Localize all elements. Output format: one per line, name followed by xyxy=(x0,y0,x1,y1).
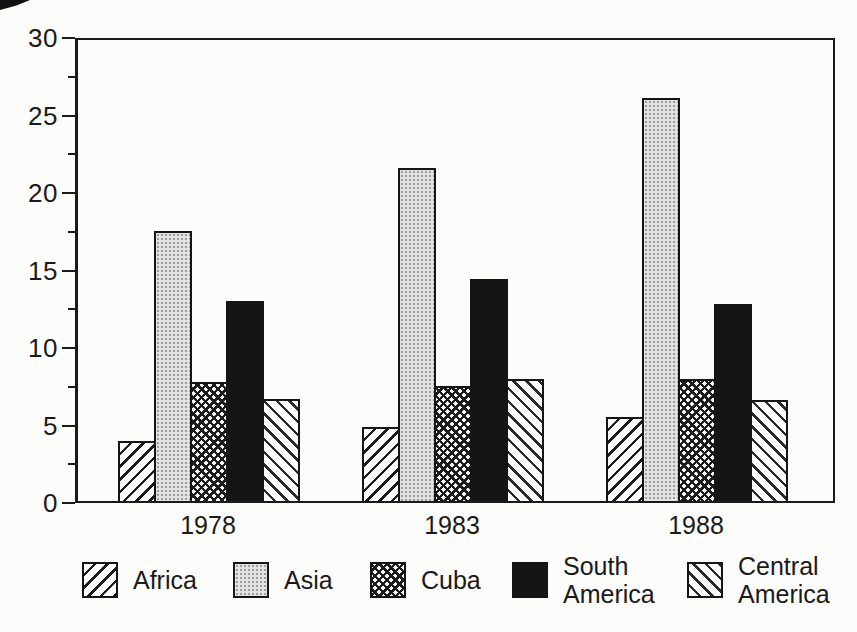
legend-label: Africa xyxy=(133,566,197,594)
bar-central-america-1983 xyxy=(506,379,544,501)
scan-artifact-corner-mark xyxy=(0,0,30,10)
bar-south-america-1988 xyxy=(714,304,752,501)
bar-asia-1983 xyxy=(398,168,436,501)
legend-label: Asia xyxy=(284,566,333,594)
y-major-tick-10 xyxy=(62,347,75,349)
bar-central-america-1978 xyxy=(262,399,300,501)
y-minor-tick xyxy=(68,463,75,465)
x-category-label-1988: 1988 xyxy=(636,511,756,540)
bars-container xyxy=(78,40,833,501)
bar-asia-1978 xyxy=(154,231,192,501)
bar-central-america-1988 xyxy=(750,400,788,501)
legend-item-central-america: Central America xyxy=(687,556,830,604)
y-major-tick-5 xyxy=(62,425,75,427)
bar-south-america-1983 xyxy=(470,279,508,501)
legend-swatch-south-america xyxy=(512,562,548,598)
y-minor-tick xyxy=(68,153,75,155)
y-minor-tick xyxy=(68,231,75,233)
y-tick-label: 10 xyxy=(0,333,58,363)
legend-label: Cuba xyxy=(421,566,481,594)
legend-label: South America xyxy=(563,552,655,608)
bar-cuba-1983 xyxy=(434,386,472,501)
y-tick-label: 0 xyxy=(0,488,58,518)
bar-cuba-1978 xyxy=(190,382,228,501)
legend-item-africa: Africa xyxy=(82,556,197,604)
y-minor-tick xyxy=(68,386,75,388)
legend-item-south-america: South America xyxy=(512,556,655,604)
legend-label: Central America xyxy=(738,552,830,608)
legend-item-cuba: Cuba xyxy=(370,556,481,604)
legend-swatch-central-america xyxy=(687,562,723,598)
bar-chart-figure: 051015202530 197819831988 AfricaAsiaCuba… xyxy=(0,0,857,632)
y-tick-label: 30 xyxy=(0,23,58,53)
y-tick-label: 20 xyxy=(0,178,58,208)
y-tick-label: 5 xyxy=(0,411,58,441)
y-tick-label: 25 xyxy=(0,101,58,131)
bar-africa-1978 xyxy=(118,441,156,501)
x-category-label-1978: 1978 xyxy=(148,511,268,540)
legend-swatch-cuba xyxy=(370,562,406,598)
bar-south-america-1978 xyxy=(226,301,264,501)
plot-area xyxy=(75,38,835,503)
y-major-tick-0 xyxy=(62,502,75,504)
legend-swatch-asia xyxy=(233,562,269,598)
y-minor-tick xyxy=(68,308,75,310)
y-tick-label: 15 xyxy=(0,256,58,286)
y-major-tick-15 xyxy=(62,270,75,272)
bar-africa-1988 xyxy=(606,417,644,501)
x-category-label-1983: 1983 xyxy=(392,511,512,540)
bar-cuba-1988 xyxy=(678,379,716,501)
y-major-tick-25 xyxy=(62,115,75,117)
legend-swatch-africa xyxy=(82,562,118,598)
y-minor-tick xyxy=(68,76,75,78)
y-major-tick-20 xyxy=(62,192,75,194)
bar-asia-1988 xyxy=(642,98,680,501)
legend-item-asia: Asia xyxy=(233,556,333,604)
y-major-tick-30 xyxy=(62,37,75,39)
bar-africa-1983 xyxy=(362,427,400,501)
